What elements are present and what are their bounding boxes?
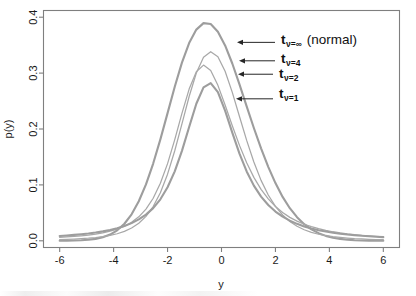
y-axis-ticks: 0.00.10.20.30.4 — [27, 10, 43, 249]
annotation-arrowhead — [237, 40, 243, 45]
y-tick-label: 0.2 — [27, 121, 39, 136]
series-label-subscript: ν=1 — [284, 93, 299, 103]
annotation-arrowhead — [239, 58, 245, 63]
x-tick-label: -4 — [109, 254, 119, 266]
density-curves-group — [60, 23, 384, 241]
annotation-arrowhead — [236, 96, 242, 101]
density-curve — [60, 65, 384, 237]
figure-canvas: 0.00.10.20.30.4 -6-4-20246 tν=∞(normal)t… — [0, 0, 416, 296]
y-axis-title: p(y) — [2, 120, 14, 139]
density-curve — [60, 23, 384, 241]
x-axis-ticks: -6-4-20246 — [55, 248, 387, 266]
y-tick-label: 0.4 — [27, 10, 39, 25]
density-curve — [60, 83, 384, 237]
annotation-arrowhead — [238, 72, 244, 77]
series-label: tν=∞(normal) — [281, 32, 357, 50]
series-label-subscript: ν=∞ — [286, 39, 302, 49]
series-label-subscript: ν=2 — [284, 73, 299, 83]
series-label: tν=4 — [281, 51, 301, 69]
x-tick-label: 2 — [272, 254, 278, 266]
series-label-subscript: ν=4 — [286, 58, 301, 68]
y-tick-label: 0.0 — [27, 233, 39, 248]
y-tick-label: 0.1 — [27, 177, 39, 192]
series-label: tν=2 — [279, 66, 299, 84]
x-axis-title: y — [218, 278, 224, 290]
x-tick-label: -6 — [55, 254, 65, 266]
series-label: tν=1 — [279, 86, 299, 104]
x-tick-label: 6 — [380, 254, 386, 266]
series-annotations-group: tν=∞(normal)tν=4tν=2tν=1 — [236, 32, 357, 104]
x-tick-label: 4 — [326, 254, 332, 266]
x-tick-label: -2 — [163, 254, 173, 266]
x-tick-label: 0 — [218, 254, 224, 266]
t-distribution-density-chart: 0.00.10.20.30.4 -6-4-20246 tν=∞(normal)t… — [0, 0, 416, 296]
density-curve — [60, 52, 384, 240]
series-label-note: (normal) — [307, 32, 357, 47]
y-tick-label: 0.3 — [27, 65, 39, 80]
